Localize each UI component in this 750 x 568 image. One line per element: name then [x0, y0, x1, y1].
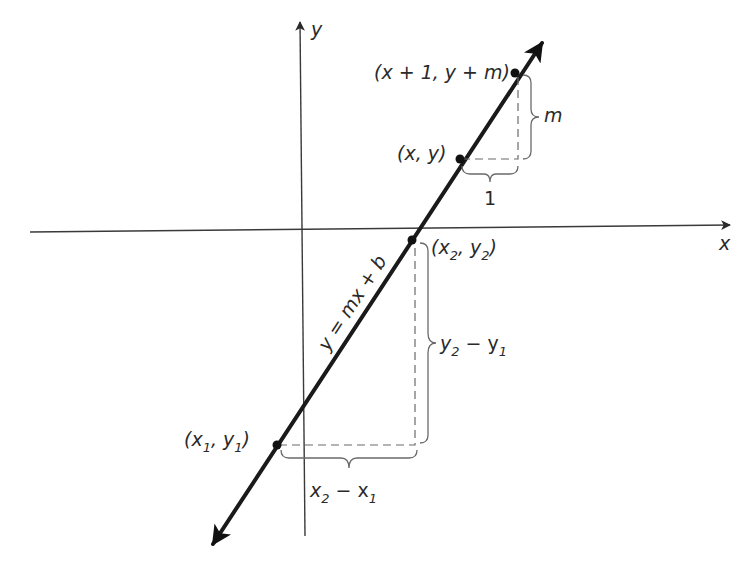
rise-brace-small	[523, 75, 539, 159]
small-triangle-dashes	[462, 75, 518, 159]
label-x1-y1: (x1, y1)	[184, 428, 250, 455]
run-brace-small	[462, 166, 518, 182]
point-x2-y2	[408, 236, 417, 245]
rise-brace-big	[420, 243, 436, 443]
point-x1-ym	[511, 69, 520, 78]
rise-label-small: m	[544, 104, 563, 126]
y-axis-label: y	[310, 18, 323, 40]
line-equation-label: y = mx + b	[312, 251, 390, 355]
y-axis	[300, 22, 305, 536]
label-x1-ym: (x + 1, y + m)	[374, 61, 510, 83]
run-brace-big	[281, 450, 417, 468]
point-x1-y1	[273, 441, 282, 450]
x-axis	[30, 225, 730, 232]
label-x-y: (x, y)	[397, 142, 446, 164]
line-y-mx-b	[213, 43, 542, 544]
run-label-small: 1	[484, 187, 496, 209]
x-axis-label: x	[718, 232, 731, 254]
run-label-big: x2 − x1	[309, 479, 377, 506]
slope-diagram: x y y = mx + b 1 m y2 − y1 x2 − x1 (x1, …	[0, 0, 750, 568]
label-x2-y2: (x2, y2)	[431, 236, 497, 263]
rise-label-big: y2 − y1	[439, 332, 507, 359]
point-x-y	[456, 155, 465, 164]
